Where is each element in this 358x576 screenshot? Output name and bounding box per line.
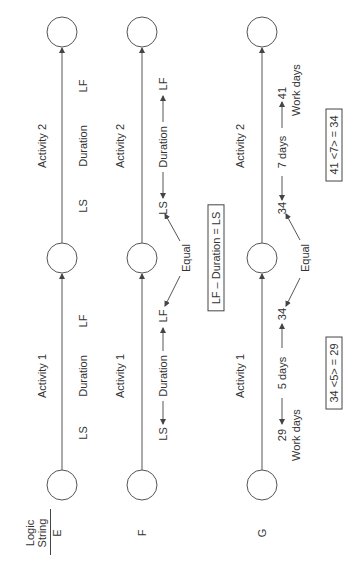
row-label-f: F — [136, 530, 148, 537]
activity-1-label: Activity 1 — [36, 354, 48, 398]
formula-box-activity-1: 34 <5> = 29 — [326, 336, 343, 409]
equal-arrow — [286, 214, 300, 240]
node-circle — [47, 243, 77, 273]
row-f-network — [127, 17, 180, 500]
node-circle — [47, 470, 77, 500]
start-unit: Work days — [290, 409, 302, 461]
activity-2-label: Activity 2 — [114, 124, 126, 168]
ls-label: LS — [77, 426, 89, 439]
node-circle — [47, 17, 77, 47]
duration-label: Duration — [77, 355, 89, 397]
equal-arrow — [165, 276, 180, 306]
equal-label: Equal — [180, 244, 192, 272]
finish-value: 41 — [276, 87, 288, 99]
equal-label: Equal — [299, 244, 311, 272]
lf-label: LF — [157, 78, 169, 91]
ls-label: LS — [157, 427, 169, 440]
node-circle — [247, 470, 277, 500]
row-e-network — [47, 17, 77, 500]
duration-value: 5 days — [276, 357, 288, 389]
finish-value: 34 — [276, 308, 288, 320]
node-circle — [247, 17, 277, 47]
diagram-graphics — [0, 0, 358, 576]
ls-label: LS — [77, 199, 89, 212]
header-line-2: String — [36, 510, 48, 556]
duration-label: Duration — [157, 126, 169, 168]
duration-value: 7 days — [276, 136, 288, 168]
node-circle — [247, 243, 277, 273]
logic-string-header: Logic String — [24, 510, 48, 556]
formula-box: LF – Duration = LS — [208, 205, 225, 312]
lf-label: LF — [157, 310, 169, 323]
activity-2-label: Activity 2 — [36, 124, 48, 168]
node-circle — [127, 243, 157, 273]
row-label-g: G — [256, 529, 268, 538]
equal-arrow — [165, 214, 180, 241]
header-line-1: Logic — [24, 510, 36, 556]
activity-1-label: Activity 1 — [114, 354, 126, 398]
formula-box-activity-2: 41 <7> = 34 — [326, 108, 343, 181]
duration-label: Duration — [157, 355, 169, 397]
row-label-e: E — [51, 529, 63, 536]
start-value: 29 — [276, 429, 288, 441]
node-circle — [127, 17, 157, 47]
equal-arrow — [286, 278, 300, 306]
start-value: 34 — [276, 202, 288, 214]
activity-1-label: Activity 1 — [234, 354, 246, 398]
finish-unit: Work days — [290, 64, 302, 116]
ls-label: LS — [157, 201, 169, 214]
duration-label: Duration — [77, 125, 89, 167]
logic-string-diagram: Logic String E F G Activity 1 Activity 2… — [0, 0, 358, 576]
activity-2-label: Activity 2 — [234, 124, 246, 168]
node-circle — [127, 470, 157, 500]
lf-label: LF — [77, 315, 89, 328]
lf-label: LF — [77, 80, 89, 93]
